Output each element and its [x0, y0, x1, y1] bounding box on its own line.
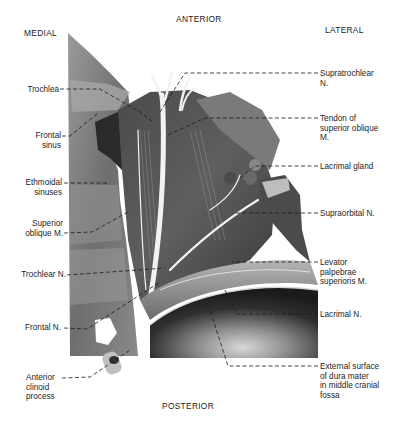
label-trochlea: Trochlea [4, 85, 59, 95]
label-frontal-n: Frontal N. [4, 323, 61, 333]
label-levator: Levator palpebrae superioris M. [320, 258, 367, 287]
anatomy-figure: ANTERIOR MEDIAL LATERAL POSTERIOR Trochl… [0, 0, 396, 421]
label-tendon-superior-oblique: Tendon of superior oblique M. [320, 114, 378, 143]
label-anterior-clinoid: Anterior clinoid process [26, 373, 55, 402]
orientation-lateral: LATERAL [325, 25, 364, 35]
label-ethmoidal-sinuses: Ethmoidal sinuses [4, 178, 62, 197]
label-trochlear-n: Trochlear N. [4, 270, 66, 280]
label-lacrimal-gland: Lacrimal gland [320, 162, 373, 172]
label-supraorbital-n: Supraorbital N. [320, 209, 375, 219]
label-dura-mater: External surface of dura mater in middle… [320, 362, 379, 400]
label-frontal-sinus: Frontal sinus [4, 131, 61, 150]
orientation-medial: MEDIAL [24, 28, 57, 38]
orientation-anterior: ANTERIOR [176, 14, 222, 24]
label-supratrochlear-n: Supratrochlear N. [320, 69, 374, 88]
orientation-posterior: POSTERIOR [162, 401, 214, 411]
label-lacrimal-n: Lacrimal N. [320, 310, 361, 320]
label-superior-oblique: Superior oblique M. [4, 219, 63, 238]
